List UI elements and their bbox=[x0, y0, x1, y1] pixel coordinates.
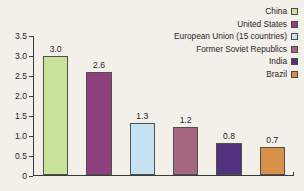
y-axis-tick: 0 bbox=[29, 176, 33, 177]
legend-color-swatch bbox=[291, 21, 298, 28]
bar[interactable] bbox=[173, 127, 198, 175]
y-axis-tick: 3.0 bbox=[29, 56, 33, 57]
bar-group: 1.3 bbox=[130, 36, 155, 175]
bar-value-label: 1.2 bbox=[180, 115, 192, 125]
legend-item-label: United States bbox=[237, 20, 287, 29]
bar-group: 0.8 bbox=[216, 36, 241, 175]
y-axis-tick: 2.5 bbox=[29, 76, 33, 77]
legend-item-label: China bbox=[265, 7, 287, 16]
bar[interactable] bbox=[86, 72, 111, 175]
y-axis-tick: 0.5 bbox=[29, 156, 33, 157]
x-axis-line bbox=[33, 175, 294, 176]
bar-group: 2.6 bbox=[86, 36, 111, 175]
bar-group: 3.0 bbox=[43, 36, 68, 175]
legend-color-swatch bbox=[291, 8, 298, 15]
plot-area: 00.51.01.52.02.53.03.5 3.02.61.31.20.80.… bbox=[33, 36, 294, 176]
y-axis-tick: 3.5 bbox=[29, 36, 33, 37]
bar-series: 3.02.61.31.20.80.7 bbox=[34, 36, 294, 175]
bar-value-label: 0.7 bbox=[266, 135, 278, 145]
y-axis-tick: 2.0 bbox=[29, 96, 33, 97]
bar-group: 1.2 bbox=[173, 36, 198, 175]
bar[interactable] bbox=[43, 56, 68, 175]
y-axis-tick-label: 1.5 bbox=[15, 111, 27, 121]
y-axis-tick-label: 1.0 bbox=[15, 131, 27, 141]
y-axis-tick-label: 2.0 bbox=[15, 91, 27, 101]
y-axis-tick-label: 0.5 bbox=[15, 151, 27, 161]
bar[interactable] bbox=[216, 143, 241, 175]
bar-value-label: 1.3 bbox=[136, 111, 148, 121]
bar-value-label: 2.6 bbox=[93, 60, 105, 70]
y-axis-tick: 1.5 bbox=[29, 116, 33, 117]
bar-chart-figure: ChinaUnited StatesEuropean Union (15 cou… bbox=[0, 0, 304, 191]
y-axis-tick-label: 0 bbox=[22, 171, 27, 181]
bar[interactable] bbox=[130, 123, 155, 175]
legend-item[interactable]: United States bbox=[237, 19, 298, 30]
bar-value-label: 0.8 bbox=[223, 131, 235, 141]
bar-group: 0.7 bbox=[260, 36, 285, 175]
y-axis-tick: 1.0 bbox=[29, 136, 33, 137]
y-axis-tick-label: 3.0 bbox=[15, 51, 27, 61]
bar-value-label: 3.0 bbox=[50, 44, 62, 54]
legend-item[interactable]: China bbox=[265, 6, 298, 17]
bar[interactable] bbox=[260, 147, 285, 175]
y-axis-tick-label: 2.5 bbox=[15, 71, 27, 81]
y-axis-tick-label: 3.5 bbox=[15, 31, 27, 41]
